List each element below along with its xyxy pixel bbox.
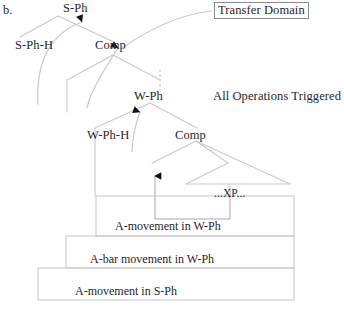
movement-arc-a-bar-s-ph	[38, 22, 82, 105]
node-label-xp: ...XP...	[214, 186, 245, 200]
movement-arc-w-ph-to-comp	[87, 48, 118, 108]
annotation-all-operations-triggered: All Operations Triggered	[213, 89, 341, 103]
node-label-w-ph: W-Ph	[134, 89, 163, 103]
domain-label-a-bar-movement-w-ph: A-bar movement in W-Ph	[90, 252, 214, 267]
tree-diagram-figure: b. S-Ph S-Ph-H Comp W-Ph W-Ph-H Comp ...…	[0, 0, 344, 336]
movement-arc-to-w-ph-spec	[132, 112, 140, 152]
node-label-w-ph-h: W-Ph-H	[87, 128, 129, 142]
node-label-comp-upper: Comp	[95, 38, 126, 52]
node-label-s-ph-h: S-Ph-H	[15, 38, 53, 52]
node-label-s-ph: S-Ph	[63, 1, 88, 15]
domain-label-a-movement-w-ph: A-movement in W-Ph	[115, 219, 221, 234]
annotation-transfer-domain: Transfer Domain	[214, 2, 309, 19]
tree-branches-w-ph	[95, 103, 290, 196]
figure-caption-marker: b.	[3, 3, 13, 17]
domain-label-a-movement-s-ph: A-movement in S-Ph	[75, 284, 177, 299]
transfer-domain-leader-line	[122, 11, 212, 48]
node-label-comp-lower: Comp	[175, 128, 206, 142]
